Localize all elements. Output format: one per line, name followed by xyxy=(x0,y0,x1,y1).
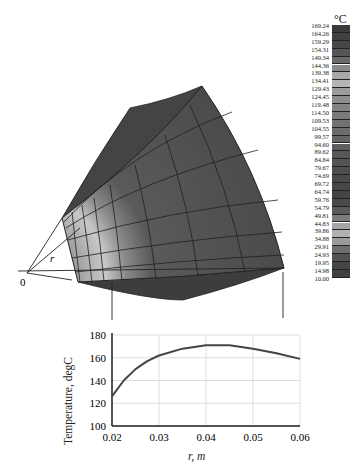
colorbar-band xyxy=(332,191,350,199)
colorbar-band xyxy=(332,199,350,207)
colorbar-band xyxy=(332,151,350,159)
colorbar-band xyxy=(332,112,350,120)
colorbar-tick-label: 64.74 xyxy=(300,188,329,195)
x-axis-label: r, m xyxy=(188,450,205,462)
colorbar-band xyxy=(332,57,350,65)
colorbar-band xyxy=(332,183,350,191)
colorbar-band xyxy=(332,270,350,278)
colorbar-tick-label: 104.55 xyxy=(300,125,329,132)
colorbar-band xyxy=(332,246,350,254)
colorbar-band xyxy=(332,72,350,80)
colorbar-band xyxy=(332,88,350,96)
colorbar-band xyxy=(332,215,350,223)
temperature-profile-chart: 0.020.030.040.050.06100120140160180 Temp… xyxy=(60,320,310,467)
colorbar-tick-label: 10.00 xyxy=(300,275,329,282)
colorbar-tick-label: 74.69 xyxy=(300,172,329,179)
x-tick-label: 0.05 xyxy=(243,431,263,443)
colorbar-tick-label: 154.31 xyxy=(300,46,329,53)
colorbar-tick-label: 94.60 xyxy=(300,141,329,148)
colorbar-tick-label: 59.76 xyxy=(300,196,329,203)
colorbar-tick-label: 69.72 xyxy=(300,180,329,187)
origin-label: 0 xyxy=(20,276,26,288)
colorbar-band xyxy=(332,254,350,262)
colorbar-tick-label: 19.95 xyxy=(300,259,329,266)
temperature-field-3d-plot: r 0 xyxy=(0,0,300,320)
colorbar-tick-label: 169.24 xyxy=(300,22,329,29)
colorbar-tick-label: 129.43 xyxy=(300,85,329,92)
colorbar-tick-label: 119.48 xyxy=(300,101,329,108)
y-axis-label: Temperature, degC xyxy=(62,357,74,445)
colorbar-band xyxy=(332,207,350,215)
colorbar-tick-label: 29.91 xyxy=(300,243,329,250)
colorbar-tick-label: 159.29 xyxy=(300,38,329,45)
colorbar-tick-label: 24.93 xyxy=(300,251,329,258)
colorbar-tick-label: 54.79 xyxy=(300,204,329,211)
colorbar-tick-label: 164.26 xyxy=(300,30,329,37)
y-tick-label: 180 xyxy=(90,329,107,341)
sector-body xyxy=(62,86,284,300)
colorbar-tick-label: 14.98 xyxy=(300,267,329,274)
colorbar-tick-label: 144.36 xyxy=(300,62,329,69)
colorbar-tick-label: 49.81 xyxy=(300,212,329,219)
x-tick-label: 0.04 xyxy=(196,431,216,443)
colorbar-band xyxy=(332,136,350,144)
y-tick-label: 160 xyxy=(90,352,107,364)
x-tick-label: 0.03 xyxy=(149,431,169,443)
colorbar-tick-label: 89.62 xyxy=(300,148,329,155)
colorbar-band xyxy=(332,159,350,167)
colorbar-band xyxy=(332,33,350,41)
colorbar-band xyxy=(332,144,350,152)
colorbar-band xyxy=(332,167,350,175)
colorbar-band xyxy=(332,230,350,238)
colorbar-tick-label: 139.38 xyxy=(300,69,329,76)
y-tick-label: 140 xyxy=(90,375,107,387)
colorbar-band xyxy=(332,49,350,57)
colorbar-band xyxy=(332,175,350,183)
colorbar-tick-label: 44.83 xyxy=(300,220,329,227)
colorbar-band xyxy=(332,120,350,128)
colorbar-tick-label: 114.50 xyxy=(300,109,329,116)
colorbar-band xyxy=(332,104,350,112)
colorbar-band xyxy=(332,262,350,270)
y-tick-label: 120 xyxy=(90,397,107,409)
colorbar-tick-label: 84.84 xyxy=(300,156,329,163)
x-tick-label: 0.06 xyxy=(290,431,310,443)
colorbar-band xyxy=(332,25,350,33)
colorbar-band xyxy=(332,96,350,104)
colorbar-tick-label: 34.88 xyxy=(300,235,329,242)
colorbar-band xyxy=(332,128,350,136)
colorbar-band xyxy=(332,238,350,246)
colorbar-tick-label: 149.34 xyxy=(300,54,329,61)
radius-label: r xyxy=(50,252,55,264)
y-tick-label: 100 xyxy=(90,420,107,432)
colorbar-band xyxy=(332,65,350,73)
colorbar-band xyxy=(332,223,350,231)
colorbar-tick-label: 134.41 xyxy=(300,77,329,84)
colorbar-tick-label: 109.53 xyxy=(300,117,329,124)
colorbar-band xyxy=(332,80,350,88)
colorbar-tick-label: 99.57 xyxy=(300,133,329,140)
colorbar-band xyxy=(332,41,350,49)
x-tick-label: 0.02 xyxy=(102,431,121,443)
colorbar-tick-label: 39.86 xyxy=(300,227,329,234)
colorbar-tick-label: 124.45 xyxy=(300,93,329,100)
colorbar-tick-label: 79.67 xyxy=(300,164,329,171)
line-chart: 0.020.030.040.050.06100120140160180 xyxy=(60,320,310,467)
